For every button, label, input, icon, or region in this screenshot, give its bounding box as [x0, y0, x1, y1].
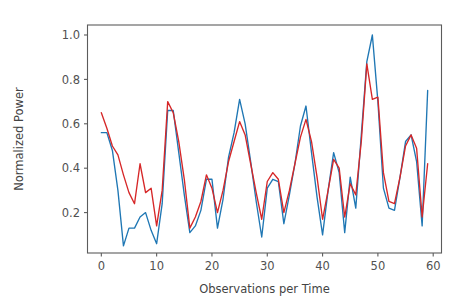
y-tick-label: 0.2 — [62, 206, 80, 220]
y-tick-label: 0.8 — [62, 73, 80, 87]
x-tick-label: 60 — [426, 259, 441, 273]
x-axis-title: Observations per Time — [199, 282, 330, 296]
x-axis: 0102030405060 — [98, 253, 441, 273]
y-tick-label: 1.0 — [62, 28, 80, 42]
axes-frame — [88, 25, 442, 253]
x-tick-label: 0 — [98, 259, 105, 273]
x-tick-label: 50 — [371, 259, 386, 273]
y-tick-label: 0.4 — [62, 161, 80, 175]
chart-figure: 01020304050600.20.40.60.81.0Observations… — [0, 0, 470, 307]
y-tick-label: 0.6 — [62, 117, 80, 131]
y-axis-title: Normalized Power — [12, 87, 26, 191]
x-tick-label: 20 — [205, 259, 220, 273]
line-chart: 01020304050600.20.40.60.81.0Observations… — [0, 0, 470, 307]
x-tick-label: 30 — [260, 259, 275, 273]
series-line-2 — [101, 64, 427, 228]
series-line-1 — [101, 35, 427, 246]
x-tick-label: 10 — [149, 259, 164, 273]
x-tick-label: 40 — [315, 259, 330, 273]
y-axis: 0.20.40.60.81.0 — [62, 28, 88, 220]
